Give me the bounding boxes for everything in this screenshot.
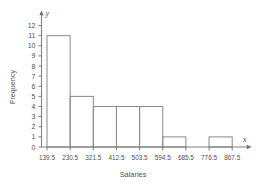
- x-axis-title: Salaries: [120, 170, 147, 179]
- x-tick-label: 503.5: [132, 154, 148, 161]
- y-tick-label: 6: [32, 83, 36, 90]
- x-tick-label: 594.5: [155, 154, 171, 161]
- y-tick-label: 4: [32, 103, 36, 110]
- y-tick-label: 7: [32, 73, 36, 80]
- x-tick-label: 412.5: [108, 154, 124, 161]
- histogram-bar: [140, 107, 163, 147]
- histogram-bar: [209, 137, 232, 147]
- y-tick-label: 0: [32, 144, 36, 151]
- y-tick-label: 2: [32, 123, 36, 130]
- x-tick-label: 867.5: [224, 154, 240, 161]
- y-tick-label: 11: [28, 32, 35, 39]
- x-axis-tick-group: [47, 147, 232, 151]
- x-tick-label: 776.5: [201, 154, 217, 161]
- y-tick-label: 8: [32, 63, 36, 70]
- y-tick-label: 3: [32, 113, 36, 120]
- y-tick-label: 10: [28, 42, 36, 49]
- x-axis-label-group: 139.5230.5321.5412.5503.5594.5685.5776.5…: [39, 154, 241, 161]
- y-tick-label: 9: [32, 52, 36, 59]
- x-tick-label: 685.5: [178, 154, 194, 161]
- y-tick-label: 1: [32, 133, 36, 140]
- y-axis-title: Frequency: [8, 70, 17, 104]
- histogram-bar: [70, 96, 93, 147]
- y-axis-variable-label: y: [45, 9, 50, 18]
- x-axis-arrow-icon: [247, 145, 252, 149]
- histogram-chart: 0123456789101112 139.5230.5321.5412.5503…: [0, 0, 265, 185]
- chart-svg: 0123456789101112 139.5230.5321.5412.5503…: [0, 0, 265, 185]
- y-tick-label: 12: [28, 22, 36, 29]
- histogram-bar: [93, 107, 116, 147]
- histogram-bar-group: [47, 36, 232, 147]
- histogram-bar: [163, 137, 186, 147]
- x-tick-label: 139.5: [39, 154, 55, 161]
- histogram-bar: [116, 107, 139, 147]
- y-tick-label: 5: [32, 93, 36, 100]
- y-axis-arrow-icon: [39, 11, 43, 16]
- histogram-bar: [47, 36, 70, 147]
- x-tick-label: 321.5: [85, 154, 101, 161]
- y-axis-label-group: 0123456789101112: [28, 22, 36, 150]
- x-axis-variable-label: x: [242, 135, 247, 144]
- x-tick-label: 230.5: [62, 154, 78, 161]
